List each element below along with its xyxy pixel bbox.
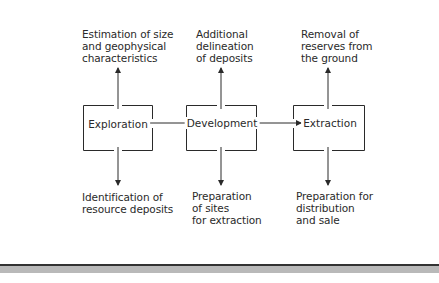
stage-extraction-label: Extraction bbox=[301, 117, 359, 129]
exploration-output-label: Estimation of size and geophysical chara… bbox=[82, 28, 173, 64]
development-input-label: Preparation of sites for extraction bbox=[192, 190, 262, 226]
exploration-input-label: Identification of resource deposits bbox=[82, 191, 173, 215]
development-output-label: Additional delineation of deposits bbox=[196, 28, 254, 64]
bottom-rule-gray bbox=[0, 266, 439, 273]
stage-development-label: Development bbox=[185, 117, 260, 129]
extraction-output-label: Removal of reserves from the ground bbox=[301, 28, 372, 64]
stage-exploration-label: Exploration bbox=[86, 118, 150, 130]
extraction-input-label: Preparation for distribution and sale bbox=[296, 190, 373, 226]
